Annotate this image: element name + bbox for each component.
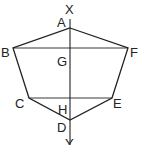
label-c: C — [15, 96, 24, 111]
label-y: Y — [65, 136, 74, 145]
label-x: X — [65, 2, 74, 17]
label-h: H — [58, 102, 67, 117]
label-e: E — [113, 96, 122, 111]
label-g: G — [57, 54, 67, 69]
label-f: F — [130, 45, 138, 60]
geometry-diagram: X A B F G C E H D Y — [0, 0, 143, 145]
label-b: B — [1, 45, 10, 60]
label-a: A — [57, 15, 66, 30]
label-d: D — [57, 120, 66, 135]
